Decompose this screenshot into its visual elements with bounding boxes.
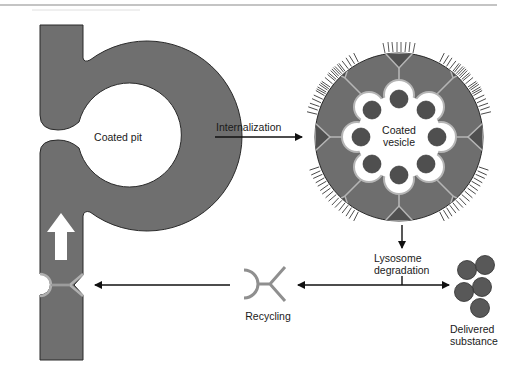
coated-pit-label: Coated pit [94, 131, 142, 143]
delivered-substance [455, 256, 495, 318]
delivered-label-2: substance [450, 335, 498, 347]
delivered-label-1: Delivered [450, 323, 495, 335]
coated-vesicle: Coated vesicle [306, 42, 492, 222]
plasma-membrane [40, 25, 242, 360]
coated-vesicle-label-2: vesicle [383, 136, 415, 148]
endocytosis-diagram: Coated pit Internalization [0, 0, 521, 370]
internalization-label: Internalization [216, 121, 282, 133]
coated-vesicle-label-1: Coated [382, 124, 416, 136]
y-receptor-icon [244, 267, 285, 301]
recycling-label: Recycling [245, 310, 291, 322]
lysosome-label-2: degradation [374, 264, 430, 276]
lysosome-label-1: Lysosome [374, 252, 422, 264]
